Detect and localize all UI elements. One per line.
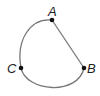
label-b: B <box>87 61 96 76</box>
point-c <box>19 66 24 71</box>
chord-ab <box>52 20 84 68</box>
label-a: A <box>47 4 57 19</box>
label-c: C <box>7 61 17 76</box>
point-b <box>82 66 87 71</box>
geometry-diagram: A B C <box>0 0 100 96</box>
